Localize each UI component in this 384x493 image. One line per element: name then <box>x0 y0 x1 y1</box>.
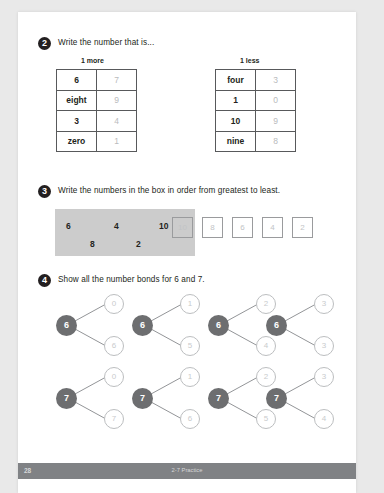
cell-given: four <box>216 70 256 91</box>
right-table-caption: 1 less <box>240 57 259 64</box>
question-2-prompt: Write the number that is... <box>58 38 154 47</box>
cell-given: 3 <box>57 111 97 132</box>
cell-answer[interactable]: 3 <box>256 70 296 91</box>
bond-whole: 6 <box>132 315 153 336</box>
table-row: 1 0 <box>216 90 296 111</box>
bond-whole: 6 <box>56 315 77 336</box>
cell-answer[interactable]: 4 <box>97 111 137 132</box>
cell-given: zero <box>57 131 97 152</box>
question-2-number: 2 <box>38 37 51 50</box>
bond-whole: 7 <box>56 388 77 409</box>
pool-number: 8 <box>90 239 95 249</box>
bond-part-bottom[interactable]: 3 <box>314 336 334 356</box>
number-bond: 7 1 6 <box>132 367 210 429</box>
cell-given: 6 <box>57 70 97 91</box>
bond-part-top[interactable]: 3 <box>314 294 334 314</box>
bond-part-top[interactable]: 3 <box>314 367 334 387</box>
cell-given: 10 <box>216 111 256 132</box>
cell-answer[interactable]: 9 <box>256 111 296 132</box>
table-row: zero 1 <box>57 131 137 152</box>
bond-whole: 6 <box>266 315 287 336</box>
number-bond: 6 3 3 <box>266 294 344 356</box>
cell-given: 1 <box>216 90 256 111</box>
pool-number: 2 <box>136 239 141 249</box>
order-answer-box[interactable]: 2 <box>292 217 313 238</box>
question-3-number: 3 <box>38 185 51 198</box>
table-row: eight 9 <box>57 90 137 111</box>
table-row: 10 9 <box>216 111 296 132</box>
bond-part-top[interactable]: 0 <box>104 294 124 314</box>
bond-part-top[interactable]: 0 <box>104 367 124 387</box>
bond-part-top[interactable]: 1 <box>180 294 200 314</box>
cell-answer[interactable]: 9 <box>97 90 137 111</box>
bond-part-bottom[interactable]: 7 <box>104 409 124 429</box>
bond-whole: 7 <box>266 388 287 409</box>
page-footer: 28 2-7 Practice <box>18 463 356 479</box>
order-answer-box[interactable]: 8 <box>202 217 223 238</box>
cell-given: eight <box>57 90 97 111</box>
one-less-table: four 3 1 0 10 9 nine 8 <box>215 69 296 152</box>
question-4-prompt: Show all the number bonds for 6 and 7. <box>58 275 205 284</box>
bond-part-top[interactable]: 1 <box>180 367 200 387</box>
table-row: nine 8 <box>216 131 296 152</box>
table-row: 3 4 <box>57 111 137 132</box>
worksheet-page: 2 Write the number that is... 1 more 6 7… <box>18 12 356 493</box>
bond-whole: 7 <box>132 388 153 409</box>
cell-answer[interactable]: 7 <box>97 70 137 91</box>
number-bond: 6 0 6 <box>56 294 134 356</box>
cell-given: nine <box>216 131 256 152</box>
pool-number: 10 <box>159 221 168 231</box>
bond-whole: 7 <box>208 388 229 409</box>
question-3-prompt: Write the numbers in the box in order fr… <box>58 186 280 195</box>
table-row: 6 7 <box>57 70 137 91</box>
cell-answer[interactable]: 8 <box>256 131 296 152</box>
left-table-caption: 1 more <box>81 57 104 64</box>
order-answer-box[interactable]: 4 <box>262 217 283 238</box>
table-row: four 3 <box>216 70 296 91</box>
question-4-number: 4 <box>38 274 51 287</box>
bond-part-bottom[interactable]: 6 <box>180 409 200 429</box>
cell-answer[interactable]: 1 <box>97 131 137 152</box>
pool-number: 6 <box>66 221 71 231</box>
cell-answer[interactable]: 0 <box>256 90 296 111</box>
pool-number: 4 <box>114 221 119 231</box>
order-answer-box[interactable]: 10 <box>172 217 193 238</box>
footer-lesson-label: 2-7 Practice <box>18 467 356 473</box>
bond-part-bottom[interactable]: 4 <box>314 409 334 429</box>
number-bond: 6 1 5 <box>132 294 210 356</box>
one-more-table: 6 7 eight 9 3 4 zero 1 <box>56 69 137 152</box>
bond-part-bottom[interactable]: 6 <box>104 336 124 356</box>
number-bond: 7 0 7 <box>56 367 134 429</box>
bond-part-bottom[interactable]: 5 <box>180 336 200 356</box>
number-bond: 7 3 4 <box>266 367 344 429</box>
order-answer-box[interactable]: 6 <box>232 217 253 238</box>
bond-whole: 6 <box>208 315 229 336</box>
